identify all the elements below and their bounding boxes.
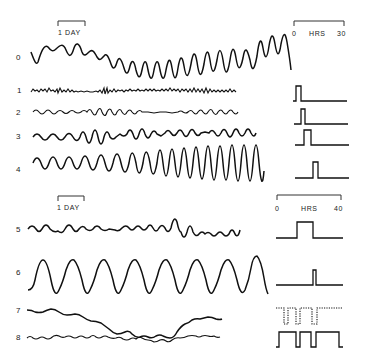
top-hrs-max: 30 — [337, 30, 346, 37]
top-hrs-zero: 0 — [292, 30, 297, 37]
pulse-6 — [276, 270, 343, 285]
bottom-day-scale-bar — [58, 196, 84, 201]
bottom-day-label: 1 DAY — [57, 204, 80, 211]
row-label-6: 6 — [16, 268, 21, 277]
top-hrs-scale-bar — [294, 21, 344, 26]
trace-0 — [31, 35, 291, 79]
bottom-hrs-label: HRS — [301, 205, 318, 212]
bottom-hrs-zero: 0 — [275, 205, 280, 212]
trace-7 — [27, 309, 222, 338]
row-label-2: 2 — [16, 108, 21, 117]
row-label-1: 1 — [17, 86, 22, 95]
pulse-3 — [295, 130, 349, 145]
trace-2 — [33, 109, 238, 116]
row-label-8: 8 — [16, 333, 21, 342]
row-label-3: 3 — [16, 132, 21, 141]
row-label-4: 4 — [16, 165, 21, 174]
trace-4 — [33, 145, 264, 181]
top-day-label: 1 DAY — [58, 29, 81, 36]
trace-5 — [28, 219, 240, 237]
trace-8 — [27, 335, 220, 342]
trace-3 — [33, 129, 256, 144]
trace-6 — [28, 256, 268, 294]
pulse-5 — [276, 222, 343, 238]
bottom-hrs-scale-bar — [277, 195, 341, 200]
row-label-7: 7 — [16, 306, 21, 315]
pulse-8 — [276, 332, 343, 347]
pulse-4 — [295, 162, 349, 178]
row-label-0: 0 — [16, 53, 21, 62]
pulse-2 — [294, 109, 348, 124]
top-hrs-label: HRS — [309, 30, 326, 37]
trace-1 — [31, 88, 236, 94]
bottom-hrs-max: 40 — [334, 205, 343, 212]
figure: 1 DAY 0 HRS 30 0 1 2 3 4 5 6 7 8 1 DAY 0… — [0, 0, 366, 360]
top-day-scale-bar — [58, 21, 85, 26]
pulse-1 — [293, 86, 347, 101]
row-label-5: 5 — [16, 225, 21, 234]
pulse-7-dotted — [276, 308, 343, 324]
